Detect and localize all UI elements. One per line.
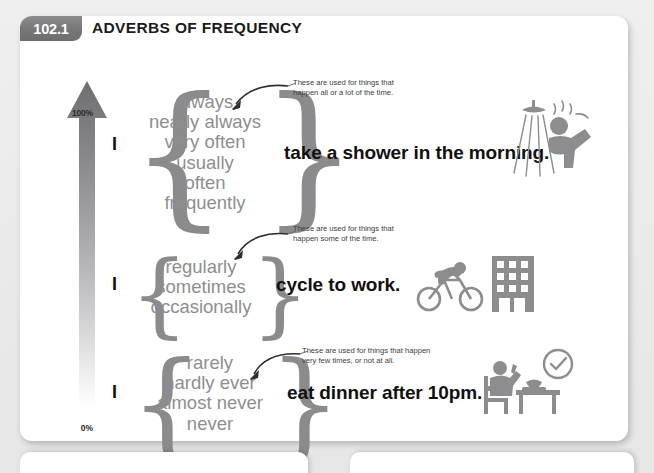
adverb-list-mid: regularly sometimes occasionally	[146, 257, 256, 318]
predicate-low: eat dinner after 10pm.	[287, 382, 482, 404]
subject-pronoun: I	[112, 274, 117, 295]
subject-pronoun: I	[112, 134, 117, 155]
note-pointer-arrow-icon	[220, 346, 310, 388]
scale-bottom-label: 0%	[64, 423, 110, 433]
card-header: 102.1 ADVERBS OF FREQUENCY	[20, 16, 628, 41]
note-pointer-arrow-icon	[210, 224, 300, 264]
exercise-card: 102.1 ADVERBS OF FREQUENCY 100%	[20, 16, 628, 441]
shower-icon	[502, 88, 607, 188]
clock-check-icon	[540, 346, 576, 382]
adverb-item: never	[146, 414, 274, 434]
adverb-item: usually	[146, 153, 264, 173]
subject-pronoun: I	[112, 382, 117, 403]
frequency-scale-arrow: 100% 0%	[64, 78, 110, 408]
note-line: These are used for things that	[293, 78, 394, 88]
bottom-left-panel[interactable]	[20, 452, 308, 473]
note-line: very few times, or not at all.	[302, 356, 430, 366]
exercise-number-badge: 102.1	[20, 16, 82, 41]
adverb-item: occasionally	[146, 297, 256, 317]
note-mid: These are used for things that happen so…	[293, 224, 394, 243]
office-building-icon	[488, 254, 538, 314]
adverb-item: almost never	[146, 393, 274, 413]
predicate-mid: cycle to work.	[276, 274, 400, 296]
note-low: These are used for things that happen ve…	[302, 346, 430, 365]
note-high: These are used for things that happen al…	[293, 78, 394, 97]
adverb-item: sometimes	[146, 277, 256, 297]
adverb-item: very often	[146, 132, 264, 152]
up-arrow-gradient-icon	[64, 78, 110, 418]
note-line: These are used for things that happen	[302, 346, 430, 356]
page-title: ADVERBS OF FREQUENCY	[92, 19, 302, 37]
adverb-item: often	[146, 173, 264, 193]
bottom-right-panel[interactable]	[350, 452, 634, 473]
note-line: happen all or a lot of the time.	[293, 88, 394, 98]
note-pointer-arrow-icon	[210, 78, 300, 118]
cyclist-icon	[416, 258, 488, 314]
note-line: These are used for things that	[293, 224, 394, 234]
page-root: 102.1 ADVERBS OF FREQUENCY 100%	[0, 0, 654, 473]
note-line: happen some of the time.	[293, 234, 394, 244]
adverb-item: frequently	[146, 193, 264, 213]
scale-top-label: 100%	[72, 108, 93, 118]
